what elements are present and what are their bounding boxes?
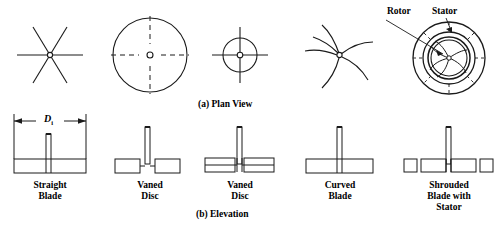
label-vaned-disc-flat: Vaned Disc (100, 180, 200, 202)
label-line-1: Straight (0, 180, 100, 191)
plan-vaned-disc-flat (111, 16, 189, 94)
label-curved-blade: Curved Blade (290, 180, 390, 202)
figure-canvas: Rotor Stator (a) Plan View (0, 0, 499, 230)
label-straight-blade: Straight Blade (0, 180, 100, 202)
label-line-2: Blade (0, 191, 100, 202)
rotor-annotation-label: Rotor (387, 6, 411, 16)
elevation-view-caption: (b) Elevation (196, 209, 249, 219)
label-vaned-disc-small: Vaned Disc (190, 180, 290, 202)
label-line-2: Disc (190, 191, 290, 202)
label-line-1: Shrouded (399, 180, 499, 191)
plan-curved-blade (305, 25, 373, 88)
plan-straight-blade (17, 27, 83, 83)
label-line-1: Vaned (100, 180, 200, 191)
impeller-diameter-label: Di (44, 113, 53, 126)
label-line-1: Curved (290, 180, 390, 191)
label-line-2: Disc (100, 191, 200, 202)
label-line-1: Vaned (190, 180, 290, 191)
stator-annotation-label: Stator (432, 6, 457, 16)
elevation-shrouded-blade-stator (404, 127, 493, 172)
elevation-vaned-disc-small (205, 127, 274, 172)
label-shrouded-blade-stator: Shrouded Blade with Stator (399, 180, 499, 213)
elevation-curved-blade (306, 127, 373, 173)
label-line-3: Stator (399, 202, 499, 213)
diameter-subscript: i (51, 119, 53, 126)
label-line-2: Blade (290, 191, 390, 202)
label-line-2: Blade with (399, 191, 499, 202)
plan-vaned-disc-small (212, 27, 268, 83)
plan-view-group (0, 0, 499, 110)
plan-rotor-stator (386, 18, 485, 94)
plan-view-caption: (a) Plan View (198, 99, 252, 109)
elevation-vaned-disc-flat (115, 127, 180, 173)
